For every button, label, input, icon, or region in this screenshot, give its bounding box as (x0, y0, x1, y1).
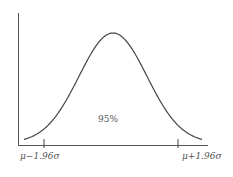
diagram-canvas: 95% μ−1.96σ μ+1.96σ (0, 0, 233, 177)
normal-distribution-diagram: 95% μ−1.96σ μ+1.96σ (0, 0, 233, 177)
right-bound-label: μ+1.96σ (182, 151, 222, 161)
center-percent-label: 95% (98, 114, 118, 124)
left-bound-label: μ−1.96σ (20, 151, 60, 161)
